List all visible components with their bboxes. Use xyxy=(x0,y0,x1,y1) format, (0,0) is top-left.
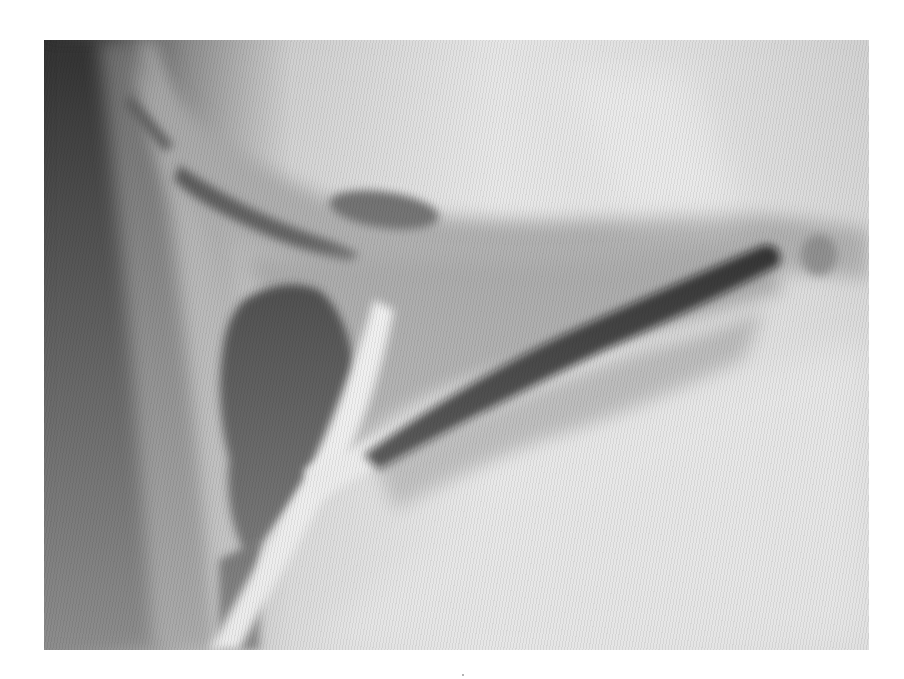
stray-mark xyxy=(462,674,464,676)
page xyxy=(0,0,904,679)
radiograph-photo xyxy=(44,40,869,650)
radiograph-illustration xyxy=(44,40,869,650)
